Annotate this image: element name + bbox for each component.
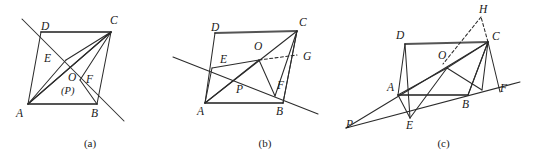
vertex-label-P: P: [236, 84, 243, 96]
transversal-P-E-B-F: [346, 82, 520, 128]
vertex-label-C: C: [492, 31, 500, 43]
segment-DC: [215, 31, 297, 33]
vertex-label-D: D: [41, 21, 49, 33]
segment-E-to-D-side: [405, 44, 410, 118]
transversal-through-E-and-B: [173, 57, 318, 114]
vertex-label-F: F: [500, 83, 507, 95]
vertex-label-E: E: [220, 54, 227, 66]
vertex-label-F: F: [86, 74, 93, 86]
vertex-label-E: E: [44, 53, 51, 65]
geometry-figure-plate: D C E O (P) F A B (a): [0, 0, 537, 167]
vertex-label-O: O: [438, 50, 446, 62]
vertex-label-A: A: [197, 106, 204, 118]
segment-C-to-F: [488, 42, 500, 92]
figure-caption-b: (b): [170, 137, 360, 149]
figure-c-drawing: [350, 0, 537, 145]
vertex-label-G: G: [303, 51, 311, 63]
vertex-label-D: D: [211, 22, 219, 34]
segment-AD: [398, 44, 405, 95]
figure-panel-b: D C O E G P F A B (b): [170, 0, 360, 167]
figure-caption-c: (c): [350, 137, 537, 149]
figure-panel-a: D C E O (P) F A B (a): [0, 0, 180, 167]
vertex-label-O: O: [68, 72, 76, 84]
vertex-label-B: B: [91, 108, 98, 120]
figure-panel-c: H D C O A B F E P (c): [350, 0, 537, 167]
figure-caption-a: (a): [0, 137, 180, 149]
vertex-label-C: C: [299, 17, 307, 29]
figure-b-drawing: [170, 0, 360, 140]
vertex-label-C: C: [110, 15, 118, 27]
vertex-label-H: H: [479, 4, 487, 16]
vertex-label-P: P: [346, 119, 353, 131]
segment-O-to-F: [259, 60, 275, 96]
vertex-label-A: A: [16, 108, 23, 120]
vertex-label-P: (P): [61, 86, 74, 97]
segment-C-to-H-dashed: [481, 17, 488, 42]
segment-H-to-O-dashed: [443, 17, 481, 64]
vertex-label-A: A: [387, 82, 394, 94]
segment-A-to-O: [205, 60, 259, 103]
vertex-label-O: O: [254, 41, 262, 53]
vertex-label-B: B: [276, 106, 283, 118]
vertex-label-D: D: [396, 30, 404, 42]
vertex-label-B: B: [462, 99, 469, 111]
segment-O-to-E: [410, 68, 447, 118]
segment-O-to-C: [447, 42, 488, 68]
segment-AD: [28, 32, 41, 104]
segment-A-to-E-ray: [28, 60, 66, 104]
segment-C-to-E: [66, 32, 111, 60]
figure-a-drawing: [0, 0, 180, 140]
segment-O-to-A: [398, 68, 447, 95]
vertex-label-F: F: [277, 80, 284, 92]
vertex-label-E: E: [406, 120, 413, 132]
segment-DC: [405, 42, 488, 44]
